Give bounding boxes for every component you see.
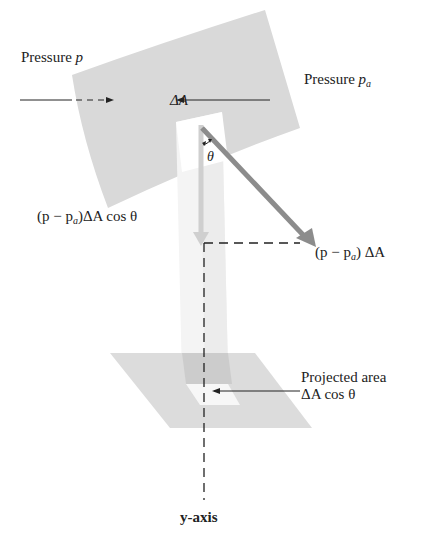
pressure-p-label: Pressure p [21,50,83,65]
delta-a-label: ΔA [170,93,188,108]
component-force-label: (p − pa)ΔA cos θ [37,209,137,226]
y-axis-label: y-axis [180,510,218,525]
total-force-label: (p − pa) ΔA [315,245,385,262]
pressure-diagram [0,0,444,544]
theta-label: θ [207,150,214,164]
projected-area-label: Projected area [301,370,386,385]
column-on-plane [182,353,232,384]
projected-area-formula: ΔA cos θ [301,387,355,402]
pressure-pa-label: Pressure pa [304,72,371,89]
